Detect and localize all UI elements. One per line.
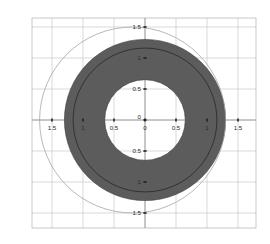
- chart-canvas: 1.510.500.511.5 1.510.50.511.5 0: [0, 0, 270, 244]
- x-tick-label: 1: [205, 124, 209, 131]
- x-tick-label: 1.5: [234, 124, 243, 131]
- annulus-plot-svg: 1.510.500.511.5 1.510.50.511.5 0: [0, 0, 270, 244]
- x-tick-label: 1: [81, 124, 85, 131]
- y-tick-label: 1.5: [132, 209, 141, 216]
- y-tick-label: 0.5: [132, 85, 141, 92]
- origin-label-group: 0: [138, 113, 142, 120]
- y-tick-label: 0.5: [132, 147, 141, 154]
- y-tick-label: 1: [138, 178, 142, 185]
- x-tick-label: 0: [143, 124, 147, 131]
- y-tick-label: 1: [138, 54, 142, 61]
- x-tick-label: 0.5: [172, 124, 181, 131]
- x-tick-label: 0.5: [110, 124, 119, 131]
- y-tick-label: 1.5: [132, 23, 141, 30]
- origin-label: 0: [138, 113, 142, 120]
- plot-background: [0, 0, 270, 244]
- x-tick-label: 1.5: [48, 124, 57, 131]
